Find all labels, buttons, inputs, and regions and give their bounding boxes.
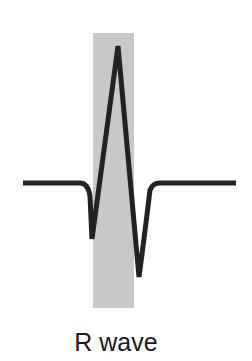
ecg-diagram bbox=[0, 0, 252, 361]
figure-label: R wave bbox=[0, 328, 232, 357]
